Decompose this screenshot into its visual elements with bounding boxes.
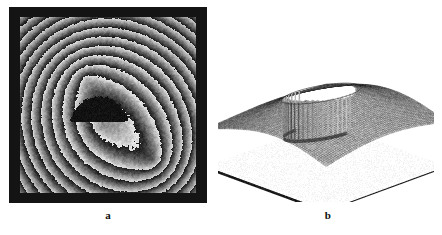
- panel-a-plot-area: [20, 17, 196, 193]
- unwrapped-phase-mesh: [218, 10, 434, 202]
- wrapped-phase-image: [20, 17, 196, 193]
- figure-container: a b: [0, 0, 442, 235]
- panel-b-surface-plot: [218, 10, 434, 202]
- panel-a-caption: a: [78, 209, 138, 221]
- panel-b-caption: b: [298, 209, 358, 221]
- panel-a-wrapped-phase-map: [9, 7, 207, 203]
